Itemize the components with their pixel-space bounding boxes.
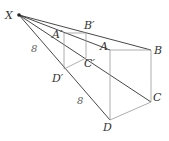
label-b: B xyxy=(153,44,162,57)
label-c: C xyxy=(153,91,162,104)
projection-diagram: X A′ B′ C′ D′ A B C D 8 8 xyxy=(0,0,169,141)
length-x-d-prime: 8 xyxy=(31,43,37,54)
label-x: X xyxy=(4,9,14,22)
center-point-x xyxy=(17,13,21,17)
edge-c-prime-d-prime xyxy=(64,58,86,69)
label-d: D xyxy=(102,121,112,134)
label-d-prime: D′ xyxy=(51,72,64,85)
label-a: A xyxy=(99,40,108,53)
label-c-prime: C′ xyxy=(84,57,95,70)
label-a-prime: A′ xyxy=(51,28,63,41)
length-d-prime-d: 8 xyxy=(77,95,83,106)
edge-c-d xyxy=(110,102,151,120)
ray-x-d xyxy=(19,15,110,120)
label-b-prime: B′ xyxy=(83,19,95,32)
